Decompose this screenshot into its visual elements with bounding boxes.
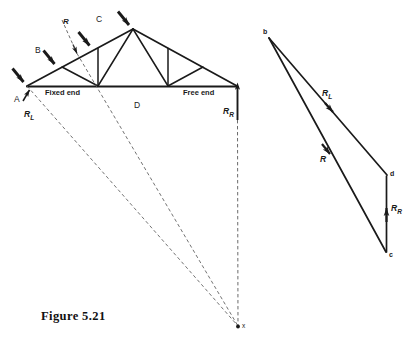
web-diagonal-left <box>62 67 98 86</box>
force-arrowhead-RL <box>325 103 333 112</box>
fixed-end-label: Fixed end <box>45 89 80 97</box>
force-vector-RR-label: RR <box>391 204 402 215</box>
reaction-RL-arrowhead <box>23 90 30 101</box>
force-vertex-b-label: b <box>263 28 267 35</box>
reaction-RR-label-sub: R <box>229 111 234 118</box>
reaction-RL-label-sub: L <box>30 114 34 121</box>
resultant-line-R <box>62 20 238 326</box>
bow-label-C: C <box>96 15 102 24</box>
force-vector-RR-label-sub: R <box>397 208 402 215</box>
bow-label-B: B <box>35 46 41 55</box>
web-diagonal-apex-right <box>133 29 168 86</box>
truss-frame <box>27 29 237 87</box>
force-vertex-c-label: c <box>389 251 393 258</box>
figure-canvas <box>0 0 413 347</box>
load-arrow-2 <box>44 51 55 65</box>
free-end-label: Free end <box>183 89 214 97</box>
reaction-RL-dashed <box>27 86 238 326</box>
reaction-RR-dashed <box>238 120 239 326</box>
truss-left-rafter <box>27 29 133 86</box>
convergence-point-x-label: x <box>242 323 245 330</box>
load-arrow-4 <box>118 12 129 26</box>
force-vector-R <box>269 38 386 252</box>
web-diagonal-right <box>168 67 203 86</box>
force-vector-RL-label: RL <box>322 89 332 100</box>
force-vector-R-label: R <box>320 155 326 164</box>
force-polygon-vectors <box>269 38 387 252</box>
convergence-point-x-dot <box>236 325 240 329</box>
bow-label-A: A <box>14 95 20 104</box>
reaction-RL-label: RL <box>24 110 34 121</box>
figure-page: A B C D Fixed end Free end RL RR R x b d… <box>0 0 413 347</box>
reaction-RR-label: RR <box>223 107 234 118</box>
force-vector-RL-label-sub: L <box>328 93 332 100</box>
load-arrow-1 <box>13 69 24 83</box>
load-arrow-3 <box>79 32 90 46</box>
force-vertex-d-label: d <box>390 170 394 177</box>
resultant-R-arrowhead <box>73 45 77 54</box>
reaction-RL-line <box>23 86 238 326</box>
resultant-R-label: R <box>63 18 69 26</box>
force-vector-R-label-base: R <box>320 154 326 164</box>
resultant-R-label-base: R <box>63 17 69 26</box>
figure-caption: Figure 5.21 <box>41 309 106 324</box>
reaction-RR-line <box>238 86 239 326</box>
bow-label-D: D <box>134 101 140 110</box>
